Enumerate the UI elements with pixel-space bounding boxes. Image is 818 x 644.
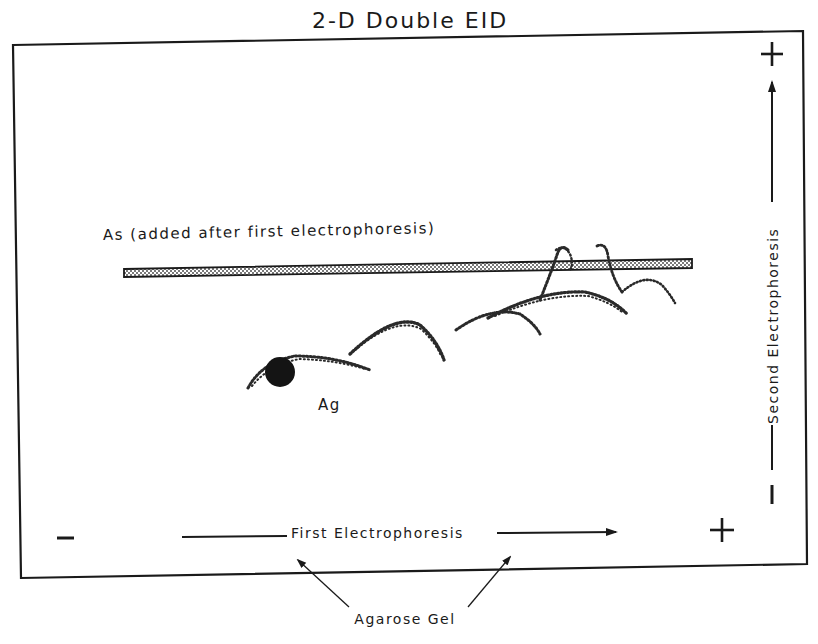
first-electrophoresis-label: First Electrophoresis bbox=[291, 525, 464, 541]
agarose-gel-pointers bbox=[298, 557, 510, 607]
second-electrophoresis-axis: Second Electrophoresis bbox=[761, 42, 783, 504]
antiserum-trough bbox=[124, 259, 692, 277]
antigen-well bbox=[265, 357, 295, 387]
diagram-title: 2-D Double EID bbox=[312, 8, 508, 33]
first-positive-sign bbox=[710, 518, 734, 542]
antiserum-label: As (added after first electrophoresis) bbox=[103, 219, 436, 244]
agarose-gel-frame bbox=[13, 31, 807, 578]
double-eid-diagram: 2-D Double EID As (added after first ele… bbox=[0, 0, 818, 644]
agarose-gel-label: Agarose Gel bbox=[354, 611, 455, 627]
second-positive-sign bbox=[761, 42, 783, 66]
first-electrophoresis-axis: First Electrophoresis bbox=[57, 518, 734, 542]
antigen-label: Ag bbox=[318, 396, 341, 414]
second-electrophoresis-label: Second Electrophoresis bbox=[765, 228, 781, 424]
